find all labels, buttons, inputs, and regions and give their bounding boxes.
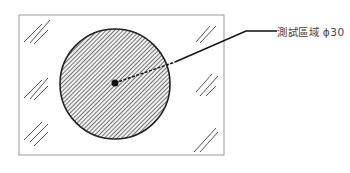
test-area-label: 測試區域 ϕ30 [277,24,345,39]
